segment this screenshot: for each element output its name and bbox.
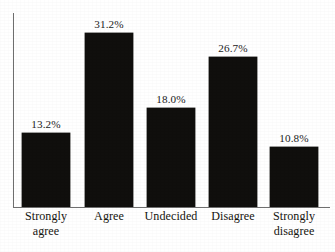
bar-undecided bbox=[147, 108, 195, 207]
y-axis-line bbox=[13, 13, 14, 208]
x-axis-tick-labels: Strongly agree Agree Undecided Disagree … bbox=[0, 209, 335, 252]
x-axis-line bbox=[13, 207, 330, 208]
bar-strongly-disagree bbox=[270, 147, 318, 207]
plot-area: 13.2% 31.2% 18.0% 26.7% 10.8% bbox=[0, 0, 335, 207]
bar-value-label: 18.0% bbox=[156, 93, 185, 105]
x-tick-label-strongly-disagree: Strongly disagree bbox=[257, 209, 331, 238]
x-tick-label-line: agree bbox=[9, 224, 83, 239]
bar-group-disagree: 26.7% bbox=[209, 0, 257, 207]
bar-value-label: 13.2% bbox=[31, 118, 60, 130]
x-tick-label-line: Strongly bbox=[257, 209, 331, 224]
bar-group-agree: 31.2% bbox=[85, 0, 133, 207]
bar-disagree bbox=[209, 57, 257, 207]
bar-value-label: 31.2% bbox=[94, 18, 123, 30]
bar-group-undecided: 18.0% bbox=[147, 0, 195, 207]
bar-group-strongly-agree: 13.2% bbox=[22, 0, 70, 207]
bar-value-label: 10.8% bbox=[279, 132, 308, 144]
bar-value-label: 26.7% bbox=[218, 42, 247, 54]
x-tick-label-line: disagree bbox=[257, 224, 331, 239]
bar-strongly-agree bbox=[22, 133, 70, 207]
bar-chart-figure: 13.2% 31.2% 18.0% 26.7% 10.8% Strongly a… bbox=[0, 0, 335, 252]
bar-group-strongly-disagree: 10.8% bbox=[270, 0, 318, 207]
bar-agree bbox=[85, 33, 133, 207]
